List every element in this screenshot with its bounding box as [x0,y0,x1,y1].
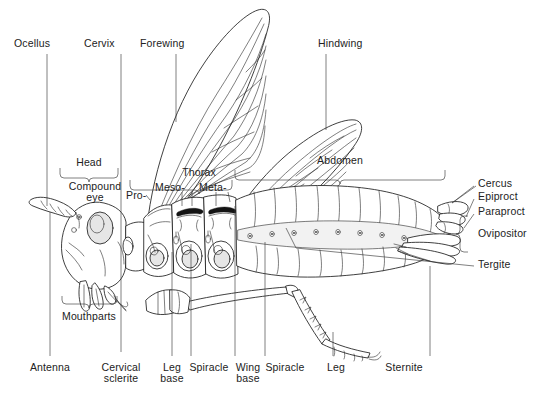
label-cervical-sclerite: Cervical sclerite [101,362,140,384]
label-ovipositor: Ovipositor [478,228,527,240]
terminalia-shapes [436,202,468,234]
label-epiproct: Epiproct [478,191,518,203]
label-cercus: Cercus [478,178,512,190]
label-tergite: Tergite [478,259,511,271]
label-cervix: Cervix [84,38,115,50]
label-hindwing: Hindwing [318,38,362,50]
label-abdomen: Abdomen [317,155,363,167]
leg-base-coxae [146,241,234,271]
label-leg-base: Leg base [160,362,183,384]
label-ocellus: Ocellus [14,38,50,50]
abdomen-shape [236,186,448,278]
label-compound-eye: Compound eye [69,181,122,203]
label-sternite: Sternite [385,362,422,374]
label-paraproct: Paraproct [478,206,525,218]
hind-leg-shape [146,285,381,361]
label-metathorax: Meta- [199,182,227,194]
label-forewing: Forewing [140,38,184,50]
insect-anatomy-figure: Ocellus Cervix Forewing Hindwing Head Th… [0,0,542,396]
label-thorax: Thorax [182,167,216,179]
label-antenna: Antenna [30,362,70,374]
label-leg: Leg [327,362,345,374]
cervix-region [123,222,146,271]
label-spiracle-thoracic: Spiracle [189,362,228,374]
label-prothorax: Pro- [126,190,146,202]
label-wing-base: Wing base [236,362,261,384]
label-mesothorax: Meso- [155,182,185,194]
label-head: Head [76,157,102,169]
label-spiracle-abdominal: Spiracle [265,362,304,374]
label-mouthparts: Mouthparts [62,311,116,323]
